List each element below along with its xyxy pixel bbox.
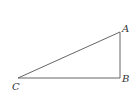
- edge-ca: [18, 32, 120, 78]
- vertex-label-c: C: [12, 81, 20, 92]
- vertex-label-b: B: [121, 73, 129, 84]
- triangle-diagram: A B C: [0, 0, 140, 98]
- vertex-label-a: A: [121, 23, 129, 34]
